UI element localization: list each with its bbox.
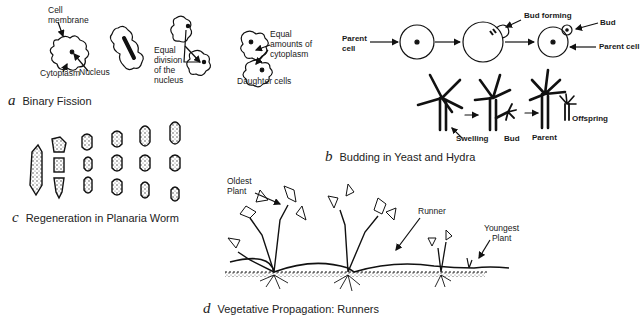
label-parent-cell-right: Parent cell xyxy=(599,42,639,52)
label-equal-amounts: Equal amounts of cytoplasm xyxy=(270,29,312,59)
caption-c: cRegeneration in Planaria Worm xyxy=(12,209,179,226)
splitting-cell-top xyxy=(171,16,192,42)
label-oldest-plant: Oldest Plant xyxy=(227,176,252,196)
label-parent: Parent xyxy=(532,133,557,143)
label-cell-membrane: Cell membrane xyxy=(48,5,89,25)
label-parent-cell-left: Parent cell xyxy=(342,34,367,54)
caption-d: dVegetative Propagation: Runners xyxy=(203,300,379,317)
label-equal-division: Equal division of the nucleus xyxy=(154,45,183,85)
label-hydra-bud: Bud xyxy=(504,134,520,144)
runner-plant-illustration xyxy=(225,184,509,291)
caption-letter-b: b xyxy=(325,148,333,164)
planaria-regeneration-illustration xyxy=(30,122,180,201)
caption-b: bBudding in Yeast and Hydra xyxy=(325,148,475,165)
caption-letter-a: a xyxy=(8,92,16,108)
caption-text-d: Vegetative Propagation: Runners xyxy=(218,303,379,315)
caption-letter-d: d xyxy=(203,300,211,316)
splitting-cell-bottom xyxy=(187,50,211,75)
caption-text-b: Budding in Yeast and Hydra xyxy=(340,151,476,163)
yeast-budding-illustration xyxy=(370,20,598,62)
label-daughter-cells: Daughter cells xyxy=(237,76,291,86)
label-offspring: Offspring xyxy=(572,114,608,124)
label-bud: Bud xyxy=(600,18,616,28)
label-swelling: Swelling xyxy=(456,134,488,144)
diagram-artwork xyxy=(0,0,643,323)
caption-a: aBinary Fission xyxy=(8,92,92,109)
label-runner: Runner xyxy=(418,206,446,216)
label-cytoplasm: Cytoplasm xyxy=(40,68,80,78)
hydra-budding-illustration xyxy=(418,70,576,138)
label-bud-forming: Bud forming xyxy=(524,11,572,21)
caption-text-c: Regeneration in Planaria Worm xyxy=(26,212,179,224)
label-nucleus: Nucleus xyxy=(79,67,110,77)
caption-letter-c: c xyxy=(12,209,19,225)
caption-text-a: Binary Fission xyxy=(23,95,92,107)
label-youngest-plant: Youngest Plant xyxy=(484,223,519,243)
